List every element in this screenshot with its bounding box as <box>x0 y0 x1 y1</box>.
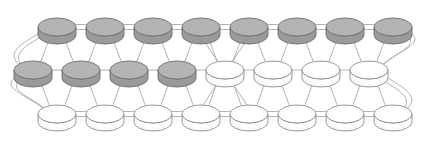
node-cylinder-cap <box>230 105 268 123</box>
node-cylinder-cap <box>14 61 52 79</box>
graph-node[interactable] <box>38 18 76 44</box>
node-cylinder-cap <box>206 61 244 79</box>
node-cylinder-cap <box>254 61 292 79</box>
node-cylinder-cap <box>86 18 124 36</box>
node-cylinder-cap <box>86 105 124 123</box>
node-cylinder-cap <box>350 61 388 79</box>
graph-node[interactable] <box>326 18 364 44</box>
graph-node[interactable] <box>278 18 316 44</box>
graph-node[interactable] <box>374 105 412 131</box>
node-cylinder-cap <box>110 61 148 79</box>
graph-node[interactable] <box>374 18 412 44</box>
graph-node[interactable] <box>230 105 268 131</box>
graph-node[interactable] <box>326 105 364 131</box>
edge-wrap-left <box>14 32 41 64</box>
graph-node[interactable] <box>230 18 268 44</box>
node-cylinder-cap <box>158 61 196 79</box>
graph-node[interactable] <box>134 105 172 131</box>
graph-node[interactable] <box>62 61 100 87</box>
graph-node[interactable] <box>38 105 76 131</box>
node-cylinder-cap <box>38 105 76 123</box>
graph-diagram <box>0 0 438 141</box>
node-cylinder-cap <box>302 61 340 79</box>
node-cylinder-cap <box>182 105 220 123</box>
node-cylinder-cap <box>278 18 316 36</box>
graph-node[interactable] <box>182 18 220 44</box>
graph-node[interactable] <box>86 18 124 44</box>
node-cylinder-cap <box>326 18 364 36</box>
node-cylinder-cap <box>374 105 412 123</box>
node-layer <box>14 18 412 131</box>
node-cylinder-cap <box>326 105 364 123</box>
node-cylinder-cap <box>38 18 76 36</box>
graph-canvas <box>0 0 438 141</box>
node-cylinder-cap <box>374 18 412 36</box>
graph-node[interactable] <box>182 105 220 131</box>
node-cylinder-cap <box>62 61 100 79</box>
graph-node[interactable] <box>302 61 340 87</box>
node-cylinder-cap <box>278 105 316 123</box>
graph-node[interactable] <box>14 61 52 87</box>
graph-node[interactable] <box>278 105 316 131</box>
graph-node[interactable] <box>254 61 292 87</box>
node-cylinder-cap <box>134 18 172 36</box>
graph-node[interactable] <box>206 61 244 87</box>
graph-node[interactable] <box>158 61 196 87</box>
graph-node[interactable] <box>350 61 388 87</box>
edge-wrap-right <box>385 76 412 108</box>
node-cylinder-cap <box>134 105 172 123</box>
node-cylinder-cap <box>182 18 220 36</box>
node-cylinder-cap <box>230 18 268 36</box>
graph-node[interactable] <box>86 105 124 131</box>
graph-node[interactable] <box>134 18 172 44</box>
graph-node[interactable] <box>110 61 148 87</box>
